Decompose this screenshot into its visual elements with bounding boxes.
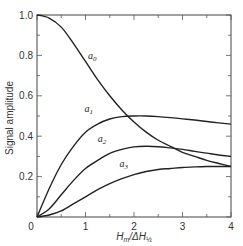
label-a2: a2 — [98, 133, 107, 146]
x-tick-label: 3 — [180, 221, 186, 232]
origin-label: 0 — [28, 221, 34, 232]
y-axis-label: Signal amplitude — [4, 81, 15, 155]
x-axis-label: Hm/ΔH½ — [116, 231, 152, 243]
x-tick-label: 4 — [228, 221, 234, 232]
y-tick-label: 0.4 — [19, 131, 33, 142]
x-tick-label: 1 — [83, 221, 89, 232]
x-label-sub2: ½ — [146, 236, 152, 243]
label-a3: a3 — [119, 158, 128, 171]
y-tick-label: 0.6 — [19, 90, 33, 101]
y-tick-label: 1.0 — [19, 10, 33, 21]
label-a0: a0 — [88, 50, 97, 63]
y-tick-label: 0.8 — [19, 50, 33, 61]
x-label-mid: /ΔH — [128, 231, 146, 242]
curves — [37, 15, 231, 217]
label-a1: a1 — [85, 103, 94, 116]
curve-a0 — [37, 15, 231, 167]
curve-a3 — [37, 166, 231, 217]
chart: 12340.20.40.60.81.00 a0a1a2a3 Signal amp… — [0, 0, 243, 246]
y-tick-label: 0.2 — [19, 171, 33, 182]
